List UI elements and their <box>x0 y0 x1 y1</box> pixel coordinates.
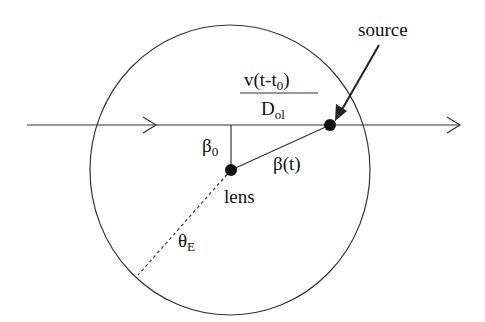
diagram-canvas: source lens v(t-t0) Dol β0 β(t) θE <box>0 0 485 322</box>
microlensing-diagram: source lens v(t-t0) Dol β0 β(t) θE <box>0 0 485 322</box>
source-dot <box>324 119 336 131</box>
source-label: source <box>358 19 408 40</box>
source-pointer-line <box>340 45 379 113</box>
velocity-numerator: v(t-t0) <box>244 69 290 93</box>
lens-label: lens <box>224 186 255 207</box>
beta0-label: β0 <box>202 135 218 159</box>
source-pointer-arrowhead-icon <box>335 104 347 121</box>
einstein-radius-dashed-line <box>138 170 231 275</box>
beta-t-label: β(t) <box>273 153 301 175</box>
theta-e-label: θE <box>178 230 195 254</box>
lens-dot <box>225 164 237 176</box>
distance-denominator: Dol <box>261 98 285 122</box>
